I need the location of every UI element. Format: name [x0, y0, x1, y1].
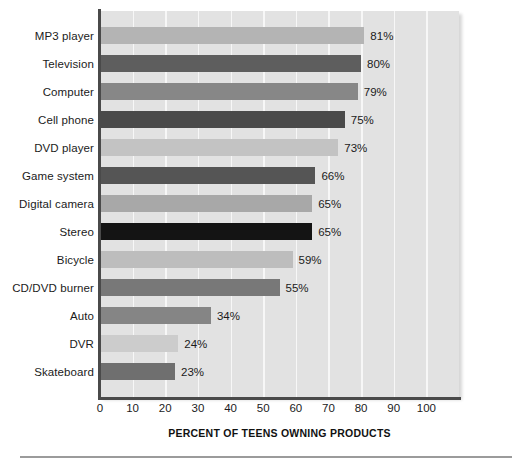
bar-value-label: 65%	[318, 226, 341, 238]
y-axis-label: MP3 player	[0, 30, 94, 42]
x-axis-tick: 0	[97, 402, 103, 414]
bar-value-labels: 81%80%79%75%73%66%65%65%59%55%34%24%23%	[100, 11, 520, 397]
x-axis-tick-labels: 0102030405060708090100	[0, 402, 531, 418]
x-axis-tick: 40	[224, 402, 237, 414]
bar-value-label: 75%	[351, 114, 374, 126]
y-axis-label: Skateboard	[0, 366, 94, 378]
bar-value-label: 34%	[217, 310, 240, 322]
x-axis-tick: 80	[355, 402, 368, 414]
bar-value-label: 81%	[370, 30, 393, 42]
y-axis-label: CD/DVD burner	[0, 282, 94, 294]
x-axis-tick: 90	[387, 402, 400, 414]
x-axis-tick: 10	[126, 402, 139, 414]
x-axis-tick: 60	[289, 402, 302, 414]
x-axis-tick: 50	[257, 402, 270, 414]
bar-value-label: 73%	[344, 142, 367, 154]
x-axis-line	[98, 397, 461, 400]
bar-value-label: 59%	[299, 254, 322, 266]
y-axis-label: DVR	[0, 338, 94, 350]
bar-value-label: 65%	[318, 198, 341, 210]
bar-value-label: 79%	[364, 86, 387, 98]
y-axis-label: Cell phone	[0, 114, 94, 126]
x-axis-tick: 100	[417, 402, 436, 414]
footer-divider	[20, 456, 512, 458]
y-axis-label: DVD player	[0, 142, 94, 154]
bar-chart-figure: MP3 playerTelevisionComputerCell phoneDV…	[0, 0, 531, 474]
x-axis-tick: 70	[322, 402, 335, 414]
bar-value-label: 24%	[184, 338, 207, 350]
y-axis-label: Digital camera	[0, 198, 94, 210]
x-axis-tick: 30	[192, 402, 205, 414]
y-axis-label: Stereo	[0, 226, 94, 238]
y-axis-label: Computer	[0, 86, 94, 98]
bar-value-label: 23%	[181, 366, 204, 378]
x-axis-title: PERCENT OF TEENS OWNING PRODUCTS	[100, 427, 459, 439]
y-axis-label: Auto	[0, 310, 94, 322]
bar-value-label: 66%	[321, 170, 344, 182]
y-axis-label: Bicycle	[0, 254, 94, 266]
y-axis-category-labels: MP3 playerTelevisionComputerCell phoneDV…	[0, 11, 94, 397]
y-axis-label: Game system	[0, 170, 94, 182]
x-axis-tick: 20	[159, 402, 172, 414]
bar-value-label: 80%	[367, 58, 390, 70]
bar-value-label: 55%	[286, 282, 309, 294]
y-axis-label: Television	[0, 58, 94, 70]
